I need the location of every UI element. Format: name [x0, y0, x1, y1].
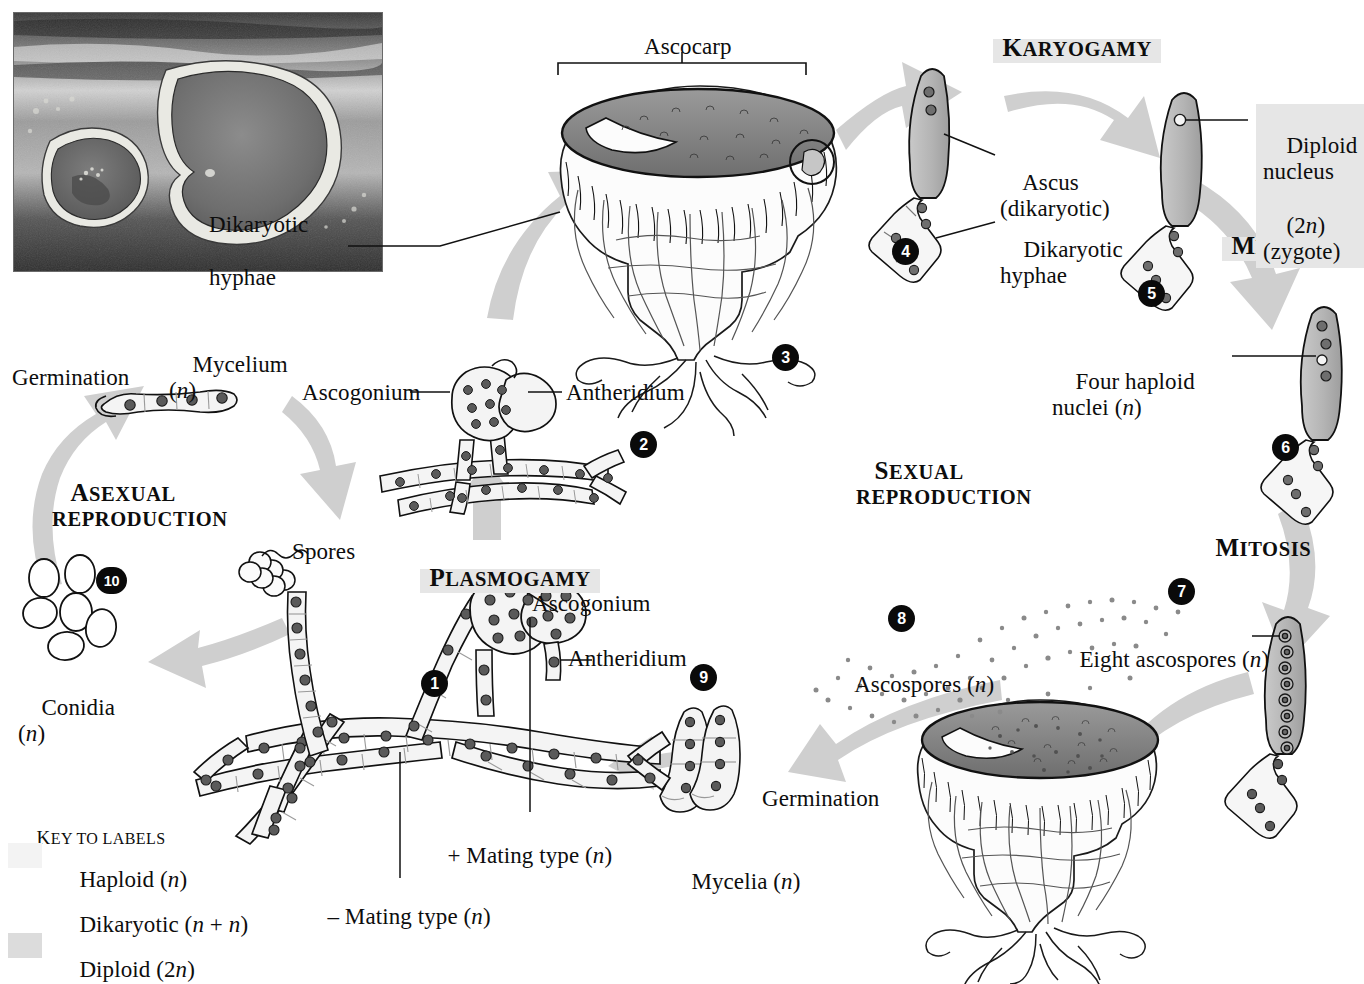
label-plus-mating-type: + Mating type (n) — [424, 816, 612, 869]
label-dikaryotic-hyphae-ascus: Dikaryotichyphae — [1000, 210, 1123, 290]
label-ascogonium-plasmogamy: Ascogonium — [302, 380, 421, 407]
step-badge-4: 4 — [892, 238, 919, 265]
label-germination-asexual: Germination — [12, 365, 129, 392]
step-badge-6: 6 — [1272, 434, 1299, 461]
heading-mitosis: MITOSIS — [1197, 514, 1311, 562]
label-four-haploid-nuclei: Four haploidnuclei (n) — [1052, 342, 1195, 422]
label-conidia: Conidia(n) — [18, 668, 115, 748]
step-badge-3: 3 — [772, 344, 799, 371]
step-badge-9: 9 — [690, 664, 717, 691]
label-spores: Spores — [292, 539, 355, 566]
key-label-diploid: Diploid (2n) — [56, 930, 195, 983]
key-swatch-diploid — [8, 933, 42, 958]
cup-fungus-photograph — [13, 12, 383, 272]
label-ascogonium-step1: Ascogonium — [532, 591, 651, 618]
heading-karyogamy: KARYOGAMY — [975, 14, 1161, 62]
step-badge-5: 5 — [1138, 280, 1165, 307]
heading-sexual-reproduction: SEXUALREPRODUCTION — [856, 437, 1032, 510]
heading-plasmogamy: PLASMOGAMY — [402, 544, 600, 592]
key-swatch-dikaryotic — [8, 888, 42, 913]
label-mycelium: Mycelium(n) — [169, 325, 288, 405]
step-badge-7: 7 — [1168, 578, 1195, 605]
label-eight-ascospores: Eight ascospores (n) — [1056, 620, 1269, 673]
label-germination-sexual: Germination — [762, 786, 879, 813]
step-badge-2: 2 — [630, 431, 657, 458]
step-badge-10: 10 — [96, 567, 127, 594]
step-badge-8: 8 — [888, 605, 915, 632]
label-mycelia: Mycelia (n) — [668, 842, 800, 895]
heading-asexual-reproduction: ASEXUALREPRODUCTION — [52, 459, 228, 532]
label-ascospores: Ascospores (n) — [832, 645, 994, 698]
label-diploid-nucleus: Diploidnucleus (2n)(zygote) — [1256, 104, 1364, 268]
key-swatch-haploid — [8, 843, 42, 868]
label-minus-mating-type: – Mating type (n) — [304, 877, 491, 930]
label-antheridium-plasmogamy: Antheridium — [566, 380, 685, 407]
label-ascocarp: Ascocarp — [644, 34, 732, 61]
label-dikaryotic-hyphae-ascocarp: Dikaryotic hyphae — [209, 212, 308, 292]
label-antheridium-step1: Antheridium — [568, 646, 687, 673]
step-badge-1: 1 — [421, 670, 448, 697]
